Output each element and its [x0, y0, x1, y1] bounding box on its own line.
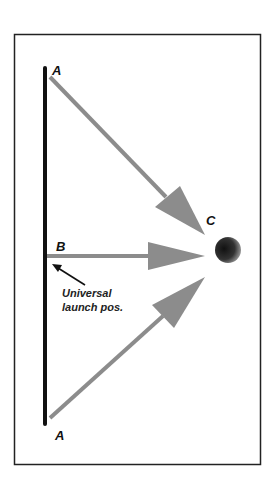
- label-c: C: [206, 213, 216, 228]
- target-ball-icon: [215, 237, 241, 263]
- annotation-line-2: launch pos.: [62, 301, 123, 313]
- annotation-line-1: Universal: [62, 287, 112, 299]
- label-top-a: A: [51, 63, 61, 78]
- launch-diagram: A B A C Universal launch pos.: [0, 0, 277, 486]
- label-b: B: [56, 239, 65, 254]
- label-bottom-a: A: [54, 428, 64, 443]
